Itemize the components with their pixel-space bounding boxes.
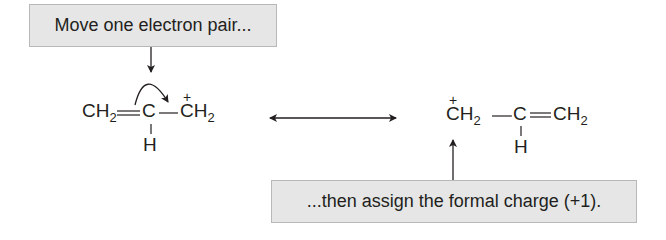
atom-c-center: C	[142, 100, 156, 122]
atom-label: CH	[82, 100, 109, 121]
atom-label: C	[513, 103, 527, 124]
subscript: 2	[207, 110, 214, 125]
atom-h: H	[143, 134, 157, 156]
atom-ch2-left: CH2	[82, 100, 117, 122]
atom-label: C	[142, 100, 156, 121]
subscript: 2	[580, 113, 587, 128]
atom-label: H	[143, 134, 157, 155]
atom-label: CH	[553, 103, 580, 124]
subscript: 2	[109, 110, 116, 125]
atom-c-center: C	[513, 103, 527, 125]
formal-charge-plus: +	[183, 89, 191, 105]
atom-label: H	[514, 136, 528, 157]
formal-charge-plus: +	[449, 92, 457, 108]
atom-ch2-right: CH2	[553, 103, 588, 125]
subscript: 2	[473, 113, 480, 128]
atom-h: H	[514, 136, 528, 158]
